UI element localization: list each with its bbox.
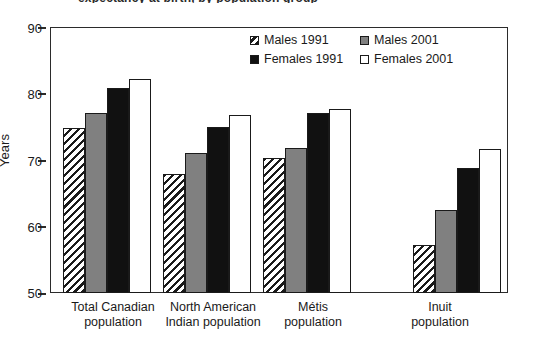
legend-label-females-2001: Females 2001 [374,52,453,66]
y-tick-mark-60 [38,226,46,228]
y-tick-label-90: 90 [2,22,42,35]
legend-label-males-2001: Males 2001 [374,33,439,47]
chart-figure: expectancy at birth, by population group… [0,0,534,349]
bar-north-american-indian-males-1991[interactable] [163,174,185,293]
bar-total-canadian-females-2001[interactable] [129,79,151,293]
y-tick-mark-50 [38,293,46,295]
category-line-1: Métis [298,300,328,314]
y-axis-title: Years [0,134,12,167]
bar-metis-males-1991[interactable] [263,158,285,293]
y-tick-mark-90 [38,27,46,29]
bar-north-american-indian-males-2001[interactable] [185,153,207,293]
category-line-2: population [84,315,142,329]
bar-inuit-males-1991[interactable] [413,245,435,293]
legend-row-1: Males 1991 Males 2001 [250,33,500,52]
y-tick-label-50: 50 [2,287,42,300]
bar-inuit-males-2001[interactable] [435,210,457,293]
category-line-2: population [284,315,342,329]
legend-row-2: Females 1991 Females 2001 [250,52,500,71]
bar-north-american-indian-females-2001[interactable] [229,115,251,293]
bar-inuit-females-1991[interactable] [457,168,479,293]
category-label-inuit: Inuit population [370,300,510,330]
legend-label-males-1991: Males 1991 [264,33,329,47]
legend-item-females-1991[interactable]: Females 1991 [250,52,360,66]
bar-north-american-indian-females-1991[interactable] [207,127,229,293]
chart-legend: Males 1991 Males 2001 Females 1991 Femal… [250,33,500,71]
y-axis: 90 80 70 60 50 [0,0,42,349]
gray-swatch-icon [360,36,369,45]
hatched-swatch-icon [250,36,259,45]
bar-inuit-females-2001[interactable] [479,149,501,293]
y-tick-label-80: 80 [2,88,42,101]
category-line-1: Inuit [428,300,452,314]
bar-metis-females-1991[interactable] [307,113,329,293]
y-tick-label-60: 60 [2,221,42,234]
legend-label-females-1991: Females 1991 [264,52,343,66]
legend-item-males-1991[interactable]: Males 1991 [250,33,360,47]
bar-metis-females-2001[interactable] [329,109,351,293]
bar-total-canadian-males-2001[interactable] [85,113,107,293]
legend-item-males-2001[interactable]: Males 2001 [360,33,439,47]
category-label-metis: Métis population [243,300,383,330]
y-tick-mark-70 [38,160,46,162]
bar-metis-males-2001[interactable] [285,148,307,293]
white-swatch-icon [360,55,369,64]
category-line-2: population [411,315,469,329]
bar-total-canadian-females-1991[interactable] [107,88,129,294]
legend-item-females-2001[interactable]: Females 2001 [360,52,453,66]
bar-total-canadian-males-1991[interactable] [63,128,85,293]
y-tick-mark-80 [38,93,46,95]
black-swatch-icon [250,55,259,64]
cropped-title-text: expectancy at birth, by population group [78,0,408,3]
